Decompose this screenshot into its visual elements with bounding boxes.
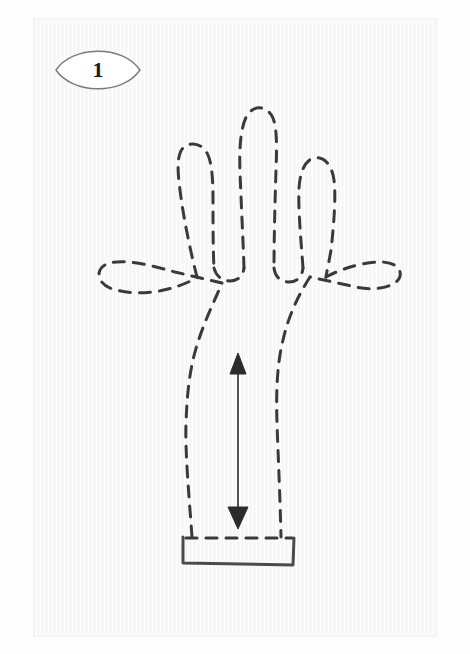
- step-badge: [56, 51, 140, 89]
- figure-root: 1 thumb index-finger middle-finger ring-…: [0, 0, 470, 654]
- arrow-head-down: [228, 507, 248, 529]
- arrow-head-up: [230, 353, 246, 374]
- glove-hand-dashed-outline: [99, 108, 400, 538]
- glove-cuff-rectangle: [183, 537, 294, 565]
- diagram-drawing-layer: [0, 0, 470, 654]
- step-badge-lens-shape: [56, 51, 140, 89]
- palm-height-double-arrow: [228, 353, 248, 529]
